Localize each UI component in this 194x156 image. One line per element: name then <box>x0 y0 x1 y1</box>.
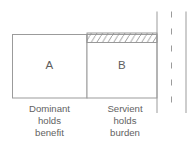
box-a-caption-line-3: benefit <box>6 127 93 139</box>
box-a-caption-line-1: Dominant <box>6 103 93 115</box>
box-b-caption: Servient holds burden <box>90 103 160 138</box>
box-b-caption-line-3: burden <box>90 127 160 139</box>
box-b-caption-line-1: Servient <box>90 103 160 115</box>
box-b-caption-line-2: holds <box>90 115 160 127</box>
burden-hatch-band <box>87 33 157 43</box>
box-a-caption: Dominant holds benefit <box>6 103 93 138</box>
box-a-label: A <box>12 60 87 72</box>
easement-diagram: A B Dominant holds benefit Servient hold… <box>0 0 194 156</box>
box-a-caption-line-2: holds <box>6 115 93 127</box>
box-b-label: B <box>87 60 157 72</box>
